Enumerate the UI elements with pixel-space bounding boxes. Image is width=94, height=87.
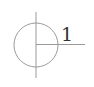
radius-label: 1 — [61, 23, 73, 45]
circle-radius-diagram: 1 — [0, 0, 94, 87]
